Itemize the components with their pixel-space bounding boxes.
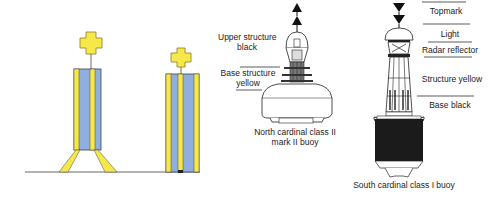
cone-up-icon (292, 3, 302, 12)
north-cardinal-buoy (262, 3, 332, 123)
cardinal-buoy-legged (59, 32, 117, 172)
base-label: Base black (420, 100, 480, 110)
base-structure-color: yellow (220, 78, 276, 88)
radar-reflector-label: Radar reflector (415, 45, 485, 55)
upper-structure-color: black (218, 42, 276, 52)
south-cardinal-buoy (374, 3, 424, 177)
buoy-diagram (0, 0, 498, 198)
south-buoy-caption: South cardinal class I buoy (344, 180, 464, 190)
base-structure-text: Base structure (220, 68, 276, 78)
north-caption-line2: mark II buoy (230, 137, 360, 147)
cross-topmark-icon (171, 48, 191, 67)
structure-label: Structure yellow (414, 74, 490, 84)
upper-structure-text: Upper structure (218, 32, 276, 42)
cone-up-icon (292, 16, 302, 25)
upper-structure-label: Upper structure black (218, 32, 276, 52)
base-structure-label: Base structure yellow (220, 68, 276, 88)
cross-topmark-icon (80, 32, 102, 54)
cone-down-icon (393, 3, 405, 12)
north-buoy-caption: North cardinal class II mark II buoy (230, 127, 360, 147)
light-label: Light (428, 29, 472, 39)
topmark-label: Topmark (424, 6, 468, 16)
cone-down-icon (393, 15, 405, 24)
cardinal-buoy-pillar (166, 48, 199, 173)
north-caption-line1: North cardinal class II (230, 127, 360, 137)
